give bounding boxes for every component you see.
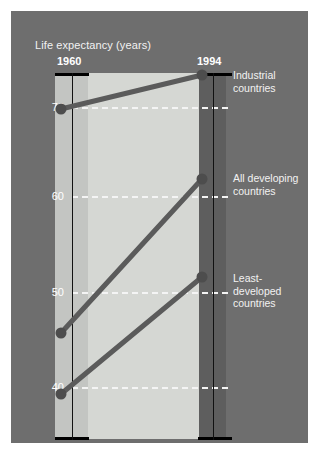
series-label-all-developing-countries: All developing countries xyxy=(233,172,319,197)
marker-all-developing-countries-1960 xyxy=(56,328,67,339)
marker-industrial-countries-1960 xyxy=(56,104,67,115)
series-label-industrial-countries: Industrial countries xyxy=(233,69,319,94)
series-label-least-developed-countries: Least- developed countries xyxy=(233,272,319,310)
slope-line-all-developing-countries xyxy=(61,179,202,333)
series-label-line-2: developed xyxy=(233,285,319,298)
marker-industrial-countries-1994 xyxy=(197,70,208,81)
marker-least-developed-countries-1960 xyxy=(56,389,67,400)
marker-least-developed-countries-1994 xyxy=(197,272,208,283)
series-label-line-3: countries xyxy=(233,297,319,310)
series-label-line-2: countries xyxy=(233,82,319,95)
slope-line-least-developed-countries xyxy=(61,277,202,394)
series-label-line-2: countries xyxy=(233,185,319,198)
marker-all-developing-countries-1994 xyxy=(197,174,208,185)
chart-panel: Life expectancy (years) 1960 1994 70 60 … xyxy=(11,11,308,443)
figure: Life expectancy (years) 1960 1994 70 60 … xyxy=(0,0,319,458)
slope-line-industrial-countries xyxy=(61,75,202,109)
series-label-line-1: Least- xyxy=(233,272,319,285)
series-label-line-1: Industrial xyxy=(233,69,319,82)
series-label-line-1: All developing xyxy=(233,172,319,185)
